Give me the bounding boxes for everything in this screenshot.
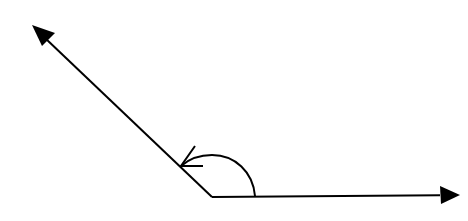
arrowhead-right-icon (440, 186, 460, 204)
angle-arc (181, 146, 255, 196)
slanted-ray (32, 25, 212, 197)
arrowhead-upleft-icon (32, 25, 55, 46)
angle-diagram (0, 0, 468, 221)
horizontal-ray (212, 186, 460, 204)
